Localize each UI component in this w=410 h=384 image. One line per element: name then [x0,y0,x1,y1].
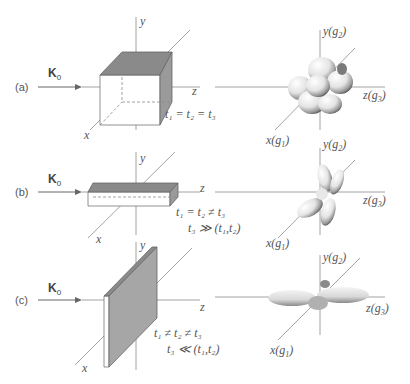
recip-label-x-a: x(g1) [266,133,289,149]
beam-arrow-c [38,297,82,303]
axis-label-y-a: y [140,14,145,29]
axis-label-x-a: x [84,128,89,143]
panel-label-c: (c) [15,294,28,306]
beam-label-a: K0 [48,66,61,82]
recip-label-y-c: y(g2) [323,250,346,266]
recip-label-y-b: y(g2) [323,137,346,153]
recip-label-z-c: z(g3) [366,301,389,317]
recip-label-x-c: x(g1) [270,343,293,359]
recip-label-x-b: x(g1) [266,236,289,252]
recip-label-z-b: z(g3) [363,193,386,209]
axis-label-z-a: z [192,84,197,99]
condition-b-2: t₃ ≫ (t₁,t₂) [188,221,241,236]
plate-edge-face [104,296,109,367]
rod-front-face [88,192,170,206]
panel-label-b: (b) [15,186,28,198]
axis-label-z-b: z [200,181,205,196]
recip-label-y-a: y(g2) [323,24,346,40]
cube-top-face [100,52,172,75]
axis-label-y-b: y [140,151,145,166]
axis-label-y-c: y [140,238,145,253]
recip-label-z-a: z(g3) [363,88,386,104]
beam-arrow-b [38,189,82,195]
plate-face [109,247,157,367]
axis-label-x-c: x [82,361,87,376]
condition-b-1: t₁ = t₂ ≠ t₃ [176,205,225,220]
condition-c-1: t₁ ≠ t₂ ≠ t₃ [154,326,202,341]
beam-arrow-a [38,84,82,90]
axis-label-x-b: x [96,232,101,247]
beam-label-c: K0 [48,281,61,297]
reciprocal-shape-a [288,57,353,114]
condition-c-2: t₃ ≪ (t₁,t₂) [167,342,220,357]
rod-top-face [88,183,178,192]
axis-label-z-c: z [200,300,205,315]
cube-front-face [100,75,160,125]
reciprocal-shape-b [294,163,347,228]
beam-label-b: K0 [48,172,61,188]
diagram-canvas [0,0,410,384]
condition-a: t₁ = t₂ = t₃ [165,107,216,122]
reciprocal-shape-c [268,280,369,310]
panel-label-a: (a) [15,81,28,93]
